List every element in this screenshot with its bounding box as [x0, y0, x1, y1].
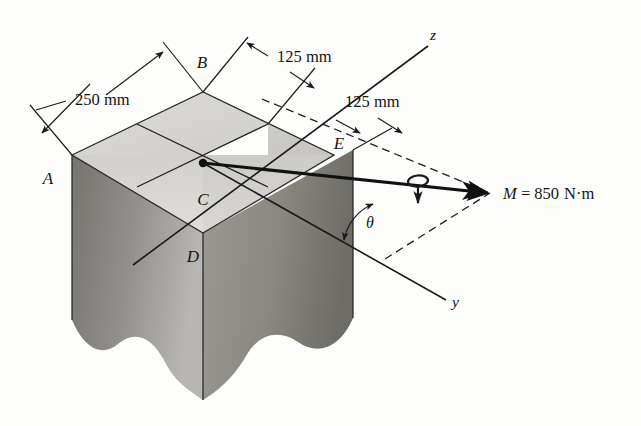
label-point-D: D [186, 247, 200, 266]
label-point-A: A [42, 169, 54, 188]
label-point-E: E [333, 134, 345, 153]
label-z-axis: z [429, 26, 436, 43]
label-moment-value: M = 850N·m [502, 184, 594, 203]
label-theta-angle: θ [366, 214, 374, 231]
label-point-B: B [197, 53, 208, 72]
point-C-marker [199, 159, 207, 167]
label-y-axis: y [450, 293, 459, 310]
label-point-C: C [197, 190, 209, 209]
moment-magnitude: 850 [534, 184, 559, 203]
moment-symbol: M [502, 184, 518, 203]
figure-container: A B C D E 250 mm 125 mm 125 mm z y θ M =… [0, 0, 641, 426]
moment-equals: = [517, 184, 535, 203]
label-dimension-125mm-upper: 125 mm [277, 47, 332, 66]
mechanics-diagram-svg: A B C D E 250 mm 125 mm 125 mm z y θ M =… [0, 0, 641, 426]
moment-unit: N·m [564, 184, 594, 203]
label-dimension-250mm: 250 mm [75, 90, 130, 109]
label-dimension-125mm-lower: 125 mm [345, 92, 400, 111]
